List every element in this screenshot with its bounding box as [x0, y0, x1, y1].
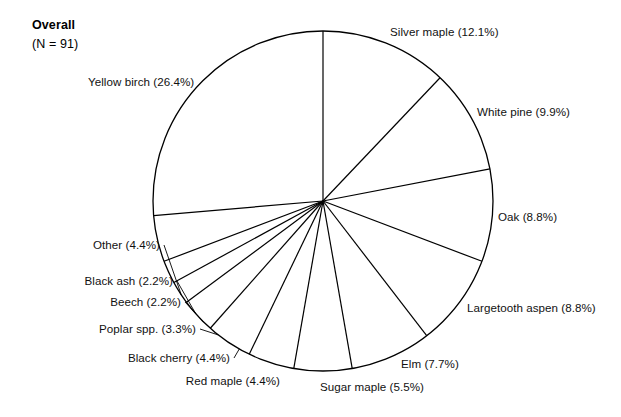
label-leader-line — [164, 245, 181, 295]
slice-label-elm: Elm (7.7%) — [401, 358, 459, 370]
pie-slice-divider — [323, 78, 440, 201]
pie-slice-divider — [294, 201, 323, 368]
label-leader-line — [234, 349, 239, 358]
slice-label-yellow-birch: Yellow birch (26.4%) — [88, 76, 194, 88]
pie-slice-divider — [249, 201, 323, 354]
pie-slice-divider — [323, 169, 490, 201]
slice-label-sugar-maple: Sugar maple (5.5%) — [320, 381, 424, 393]
slice-label-white-pine: White pine (9.9%) — [477, 106, 570, 118]
pie-slice-divider — [187, 201, 323, 302]
slice-label-beech: Beech (2.2%) — [110, 296, 181, 308]
pie-slice-divider — [210, 201, 323, 328]
pie-slice-divider — [323, 201, 352, 368]
slice-label-black-cherry: Black cherry (4.4%) — [128, 352, 230, 364]
slice-label-poplar-spp: Poplar spp. (3.3%) — [99, 323, 196, 335]
label-leader-line — [185, 302, 204, 322]
slice-label-oak: Oak (8.8%) — [498, 211, 557, 223]
slice-label-red-maple: Red maple (4.4%) — [186, 375, 280, 387]
pie-slice-divider — [164, 201, 323, 261]
slice-label-black-ash: Black ash (2.2%) — [85, 275, 173, 287]
slice-label-silver-maple: Silver maple (12.1%) — [390, 26, 499, 38]
pie-slice-divider — [174, 201, 323, 283]
pie-diagram — [0, 0, 621, 417]
slice-label-other: Other (4.4%) — [93, 239, 160, 251]
pie-slice-divider — [154, 201, 323, 216]
slice-label-largetooth-aspen: Largetooth aspen (8.8%) — [467, 302, 596, 314]
pie-chart-figure: Overall (N = 91) Silver maple (12.1%) Wh… — [0, 0, 621, 417]
